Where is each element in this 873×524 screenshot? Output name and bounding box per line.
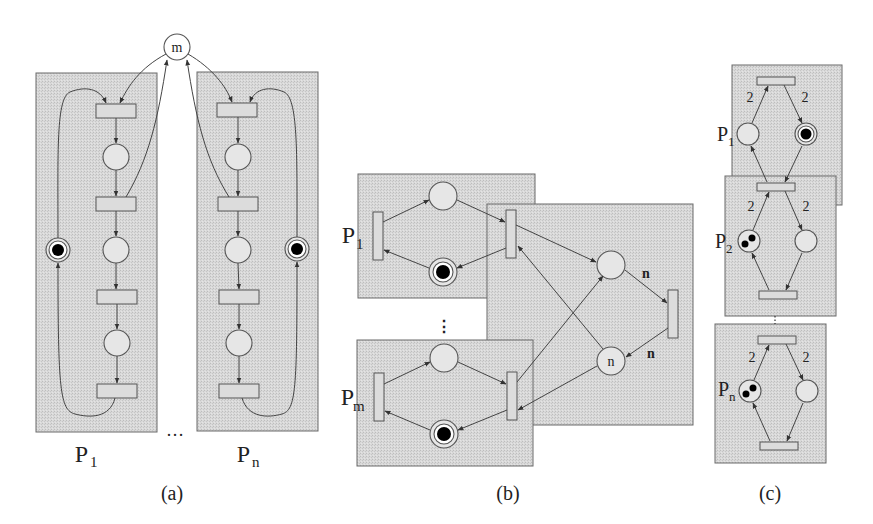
petri-net-figure: m <box>0 0 873 524</box>
transition <box>97 384 137 398</box>
svg-text:P: P <box>717 123 728 145</box>
shared-place-label: m <box>172 40 183 55</box>
transition <box>97 290 137 304</box>
transition <box>96 197 136 211</box>
panel-a: m <box>36 34 318 505</box>
token <box>749 235 756 242</box>
ellipsis-processes: ⋮ <box>436 318 452 335</box>
transition <box>757 77 795 85</box>
svg-text:P: P <box>715 230 726 252</box>
transition <box>506 210 516 258</box>
caption-b: (b) <box>496 482 519 505</box>
arc-weight: 2 <box>802 90 809 105</box>
transition <box>507 372 517 420</box>
token <box>743 391 750 398</box>
marked-place <box>739 380 761 402</box>
place <box>430 344 458 372</box>
svg-text:P: P <box>75 441 88 467</box>
panel-c: 2 2 2 2 2 2 P 1 P <box>715 65 842 505</box>
svg-text:2: 2 <box>726 241 733 256</box>
svg-text:1: 1 <box>728 134 735 149</box>
transition <box>218 197 258 211</box>
svg-text:1: 1 <box>90 454 98 470</box>
transition <box>668 290 678 338</box>
label-pn: P n <box>237 441 260 470</box>
transition <box>374 373 384 421</box>
transition <box>96 104 136 118</box>
token <box>291 243 303 255</box>
label-p1: P 1 <box>75 441 98 470</box>
transition <box>758 336 796 344</box>
svg-text:n: n <box>608 354 615 369</box>
arc-weight: 2 <box>747 90 754 105</box>
svg-text:n: n <box>729 389 736 404</box>
place <box>103 144 129 170</box>
transition <box>373 212 383 260</box>
caption-a: (a) <box>161 482 183 505</box>
token <box>750 385 757 392</box>
place <box>737 123 759 145</box>
place <box>225 144 251 170</box>
place <box>226 330 252 356</box>
svg-text:m: m <box>353 398 365 414</box>
transition <box>759 291 797 299</box>
token <box>742 241 749 248</box>
arc-weight: 2 <box>749 350 756 365</box>
transition <box>219 384 259 398</box>
svg-text:P: P <box>341 384 354 410</box>
svg-text:P: P <box>237 441 250 467</box>
transition <box>757 183 795 191</box>
arc-weight-n: n <box>647 346 655 361</box>
place <box>103 237 129 263</box>
arc-weight: 2 <box>803 350 810 365</box>
place <box>225 237 251 263</box>
place <box>597 251 625 279</box>
arc-weight: 2 <box>803 199 810 214</box>
transition <box>760 442 798 450</box>
place <box>429 182 457 210</box>
transition <box>217 103 257 117</box>
token <box>436 265 450 279</box>
place <box>795 230 817 252</box>
caption-c: (c) <box>759 482 781 505</box>
svg-text:P: P <box>342 222 355 248</box>
token <box>52 244 64 256</box>
token <box>801 129 812 140</box>
token <box>437 427 451 441</box>
arc-weight: 2 <box>748 199 755 214</box>
transition <box>219 290 259 304</box>
svg-text:P: P <box>718 378 729 400</box>
svg-text:1: 1 <box>356 236 364 252</box>
marked-place <box>738 230 760 252</box>
arc-weight-n: n <box>642 266 650 281</box>
place <box>796 380 818 402</box>
ellipsis-processes: … <box>166 420 184 440</box>
place <box>104 330 130 356</box>
panel-b: n n n ⋮ P 1 P m (b) <box>341 174 693 505</box>
svg-text:n: n <box>252 454 260 470</box>
